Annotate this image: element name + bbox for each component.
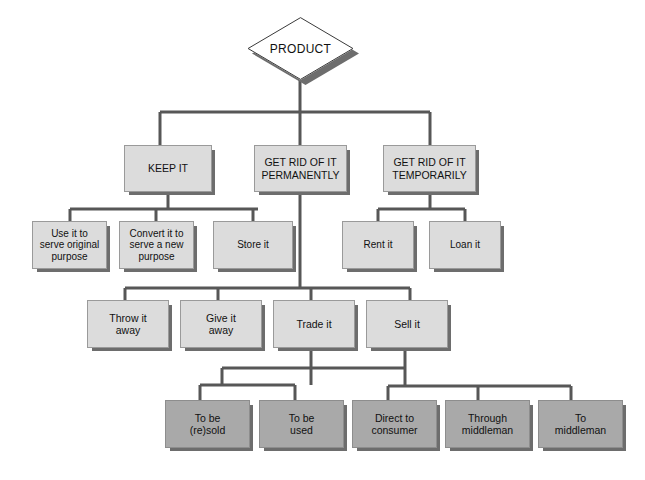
node-trade-it-label: Trade it bbox=[293, 318, 334, 330]
node-to-middleman-label: To middleman bbox=[552, 412, 609, 436]
node-convert-new-purpose[interactable]: Convert it to serve a new purpose bbox=[119, 221, 194, 269]
node-loan-it[interactable]: Loan it bbox=[429, 221, 501, 269]
node-to-be-resold[interactable]: To be (re)sold bbox=[165, 400, 250, 448]
node-keep-it[interactable]: KEEP IT bbox=[124, 145, 212, 192]
node-sell-it-label: Sell it bbox=[391, 318, 423, 330]
node-give-it-away-label: Give it away bbox=[203, 312, 239, 336]
node-through-middleman[interactable]: Through middleman bbox=[445, 400, 530, 448]
node-use-original-purpose-label: Use it to serve original purpose bbox=[37, 228, 102, 263]
node-to-middleman[interactable]: To middleman bbox=[538, 400, 623, 448]
flowchart-canvas: PRODUCT KEEP ITGET RID OF IT PERMANENTLY… bbox=[0, 0, 645, 480]
node-give-it-away[interactable]: Give it away bbox=[180, 300, 262, 348]
node-to-be-used-label: To be used bbox=[286, 412, 318, 436]
node-convert-new-purpose-label: Convert it to serve a new purpose bbox=[127, 228, 187, 263]
node-throw-it-away-label: Throw it away bbox=[106, 312, 149, 336]
node-to-be-resold-label: To be (re)sold bbox=[187, 412, 229, 436]
node-to-be-used[interactable]: To be used bbox=[259, 400, 344, 448]
node-rent-it[interactable]: Rent it bbox=[342, 221, 414, 269]
node-get-rid-temporarily-label: GET RID OF IT TEMPORARILY bbox=[389, 156, 469, 180]
node-rent-it-label: Rent it bbox=[361, 239, 396, 251]
node-direct-to-consumer-label: Direct to consumer bbox=[368, 412, 420, 436]
node-direct-to-consumer[interactable]: Direct to consumer bbox=[352, 400, 437, 448]
node-use-original-purpose[interactable]: Use it to serve original purpose bbox=[32, 221, 107, 269]
node-sell-it[interactable]: Sell it bbox=[366, 300, 448, 348]
node-store-it[interactable]: Store it bbox=[213, 221, 293, 269]
node-through-middleman-label: Through middleman bbox=[459, 412, 516, 436]
product-root-label: PRODUCT bbox=[247, 17, 354, 80]
product-root-node[interactable]: PRODUCT bbox=[247, 17, 354, 80]
node-throw-it-away[interactable]: Throw it away bbox=[87, 300, 169, 348]
node-get-rid-permanently-label: GET RID OF IT PERMANENTLY bbox=[259, 156, 343, 180]
node-keep-it-label: KEEP IT bbox=[145, 162, 191, 174]
node-get-rid-temporarily[interactable]: GET RID OF IT TEMPORARILY bbox=[383, 145, 476, 192]
node-get-rid-permanently[interactable]: GET RID OF IT PERMANENTLY bbox=[254, 145, 347, 192]
node-store-it-label: Store it bbox=[234, 239, 272, 251]
node-trade-it[interactable]: Trade it bbox=[273, 300, 355, 348]
node-loan-it-label: Loan it bbox=[447, 239, 483, 251]
